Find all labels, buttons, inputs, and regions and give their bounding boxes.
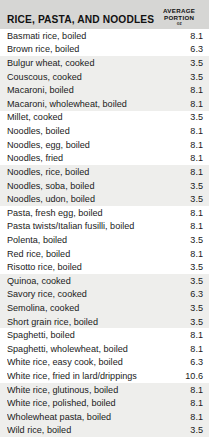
portion-value: 8.1 [157, 249, 203, 259]
food-label: Semolina, cooked [7, 303, 157, 313]
food-label: Risotto rice, boiled [7, 262, 157, 272]
food-label: White rice, polished, boiled [7, 398, 157, 408]
food-label: Polenta, boiled [7, 235, 157, 245]
food-label: Noodles, rice, boiled [7, 167, 157, 177]
portion-value: 8.1 [157, 344, 203, 354]
food-label: Macaroni, boiled [7, 85, 157, 95]
table-row: Noodles, boiled8.1 [0, 124, 209, 138]
table-row: Risotto rice, boiled3.5 [0, 260, 209, 274]
food-label: Wholewheat pasta, boiled [7, 412, 157, 422]
portion-value: 3.5 [157, 72, 203, 82]
food-label: Wild rice, boiled [7, 425, 157, 435]
column-header-unit: oz [154, 21, 204, 27]
food-label: Millet, cooked [7, 112, 157, 122]
nutrition-table: RICE, PASTA, AND NOODLES AVERAGE PORTION… [0, 0, 209, 444]
portion-value: 6.3 [157, 357, 203, 367]
food-label: Spaghetti, wholewheat, boiled [7, 344, 157, 354]
portion-value: 10.6 [157, 371, 203, 381]
table-header: RICE, PASTA, AND NOODLES AVERAGE PORTION… [0, 0, 209, 29]
table-row: Semolina, cooked3.5 [0, 301, 209, 315]
table-row: Pasta, fresh egg, boiled8.1 [0, 206, 209, 220]
table-row: Noodles, egg, boiled8.1 [0, 138, 209, 152]
food-label: Spaghetti, boiled [7, 330, 157, 340]
table-row: Wild rice, boiled3.5 [0, 424, 209, 438]
column-header-line2: PORTION [154, 14, 204, 21]
portion-value: 8.1 [157, 31, 203, 41]
food-label: Pasta, fresh egg, boiled [7, 208, 157, 218]
table-row: Pasta twists/Italian fusilli, boiled8.1 [0, 220, 209, 234]
portion-value: 3.5 [157, 262, 203, 272]
food-label: Short grain rice, boiled [7, 317, 157, 327]
portion-value: 3.5 [157, 112, 203, 122]
table-row: White rice, easy cook, boiled6.3 [0, 356, 209, 370]
portion-value: 8.1 [157, 221, 203, 231]
portion-value: 8.1 [157, 153, 203, 163]
portion-value: 3.5 [157, 235, 203, 245]
food-label: Pasta twists/Italian fusilli, boiled [7, 221, 157, 231]
table-row: Macaroni, boiled8.1 [0, 83, 209, 97]
food-label: Macaroni, wholewheat, boiled [7, 99, 157, 109]
food-label: Quinoa, cooked [7, 276, 157, 286]
table-row: Savory rice, cooked6.3 [0, 288, 209, 302]
portion-value: 6.3 [157, 44, 203, 54]
portion-value: 3.5 [157, 58, 203, 68]
table-row: Basmati rice, boiled8.1 [0, 29, 209, 43]
portion-value: 3.5 [157, 303, 203, 313]
table-row: Quinoa, cooked3.5 [0, 274, 209, 288]
table-row: Short grain rice, boiled3.5 [0, 315, 209, 329]
column-header-line1: AVERAGE [154, 7, 204, 14]
table-row: Red rice, boiled8.1 [0, 247, 209, 261]
food-label: Savory rice, cooked [7, 289, 157, 299]
column-header-average-portion: AVERAGE PORTION oz [154, 7, 204, 29]
portion-value: 3.5 [157, 425, 203, 435]
portion-value: 8.1 [157, 208, 203, 218]
portion-value: 3.5 [157, 276, 203, 286]
food-label: White rice, glutinous, boiled [7, 385, 157, 395]
table-row: Noodles, fried8.1 [0, 151, 209, 165]
food-label: Noodles, udon, boiled [7, 194, 157, 204]
portion-value: 8.1 [157, 99, 203, 109]
portion-value: 8.1 [157, 398, 203, 408]
portion-value: 3.5 [157, 317, 203, 327]
portion-value: 3.5 [157, 181, 203, 191]
food-label: Brown rice, boiled [7, 44, 157, 54]
table-row: Noodles, udon, boiled3.5 [0, 192, 209, 206]
food-label: White rice, easy cook, boiled [7, 357, 157, 367]
portion-value: 3.5 [157, 194, 203, 204]
portion-value: 8.1 [157, 167, 203, 177]
table-body: Basmati rice, boiled8.1Brown rice, boile… [0, 29, 209, 437]
portion-value: 8.1 [157, 85, 203, 95]
table-row: Noodles, rice, boiled8.1 [0, 165, 209, 179]
table-row: Bulgur wheat, cooked3.5 [0, 56, 209, 70]
food-label: Noodles, soba, boiled [7, 181, 157, 191]
table-row: White rice, polished, boiled8.1 [0, 396, 209, 410]
table-row: White rice, fried in lard/drippings10.6 [0, 369, 209, 383]
portion-value: 8.1 [157, 412, 203, 422]
table-row: Couscous, cooked3.5 [0, 70, 209, 84]
portion-value: 6.3 [157, 289, 203, 299]
table-row: Spaghetti, wholewheat, boiled8.1 [0, 342, 209, 356]
food-label: Noodles, boiled [7, 126, 157, 136]
food-label: Noodles, egg, boiled [7, 140, 157, 150]
table-row: White rice, glutinous, boiled8.1 [0, 383, 209, 397]
table-row: Millet, cooked3.5 [0, 111, 209, 125]
portion-value: 8.1 [157, 385, 203, 395]
food-label: Bulgur wheat, cooked [7, 58, 157, 68]
table-row: Polenta, boiled3.5 [0, 233, 209, 247]
food-label: Noodles, fried [7, 153, 157, 163]
portion-value: 8.1 [157, 330, 203, 340]
table-row: Noodles, soba, boiled3.5 [0, 179, 209, 193]
food-label: Couscous, cooked [7, 72, 157, 82]
table-row: Macaroni, wholewheat, boiled8.1 [0, 97, 209, 111]
table-row: Spaghetti, boiled8.1 [0, 328, 209, 342]
food-label: White rice, fried in lard/drippings [7, 371, 157, 381]
table-row: Wholewheat pasta, boiled8.1 [0, 410, 209, 424]
portion-value: 8.1 [157, 140, 203, 150]
food-label: Red rice, boiled [7, 249, 157, 259]
portion-value: 8.1 [157, 126, 203, 136]
section-title: RICE, PASTA, AND NOODLES [7, 14, 154, 29]
table-row: Brown rice, boiled6.3 [0, 43, 209, 57]
food-label: Basmati rice, boiled [7, 31, 157, 41]
